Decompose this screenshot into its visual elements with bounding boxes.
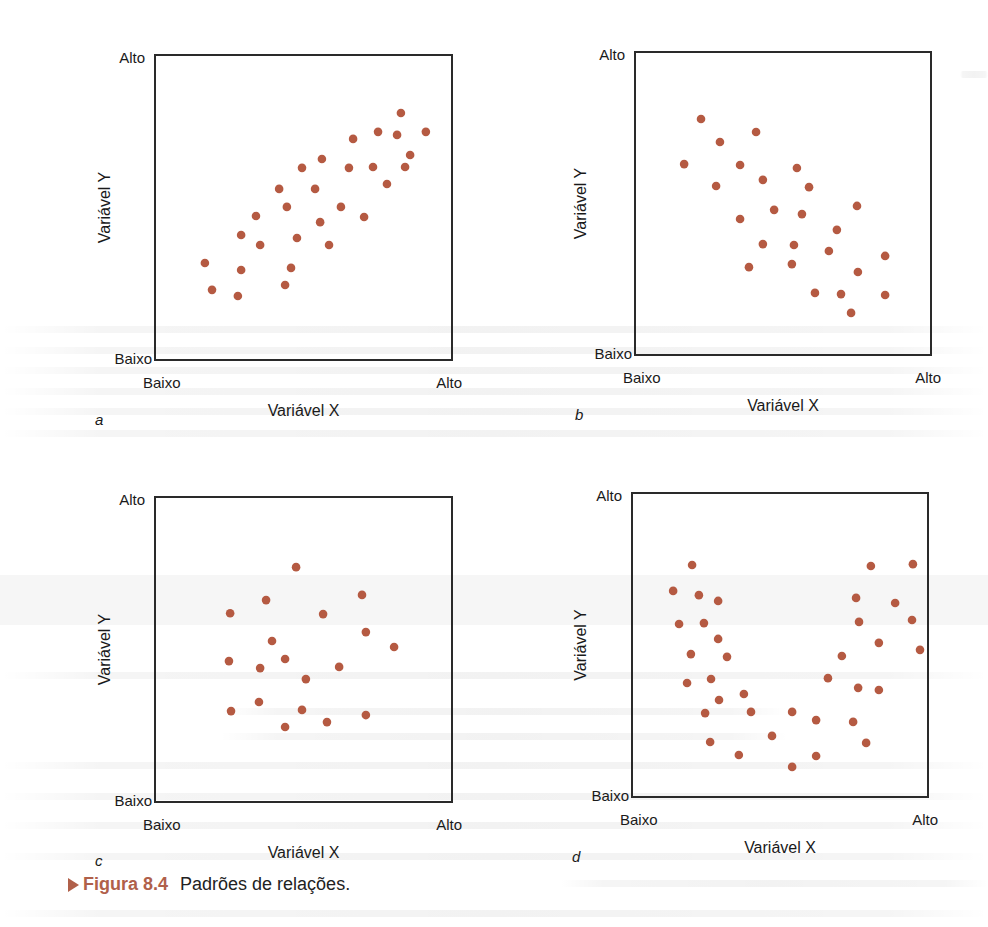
scatter-panel-a: [155, 55, 452, 360]
data-point: [759, 240, 768, 249]
data-point: [256, 664, 265, 673]
plot-frame: [155, 497, 452, 802]
data-point: [759, 176, 768, 185]
data-point: [735, 751, 744, 760]
data-point: [234, 292, 243, 301]
y-axis-title: Variável Y: [572, 167, 589, 239]
data-point: [369, 163, 378, 172]
y-tick-label-low: Baixo: [591, 787, 629, 804]
data-point: [255, 698, 264, 707]
data-point: [805, 183, 814, 192]
data-point: [793, 164, 802, 173]
y-tick-label-low: Baixo: [114, 792, 152, 809]
data-point: [281, 655, 290, 664]
data-point: [790, 241, 799, 250]
data-point: [824, 674, 833, 683]
data-point: [881, 252, 890, 261]
scatter-panel-d: [632, 493, 928, 797]
data-point: [683, 679, 692, 688]
x-tick-label-high: Alto: [912, 811, 938, 828]
data-point: [811, 289, 820, 298]
y-tick-label-high: Alto: [119, 49, 145, 66]
data-point: [337, 203, 346, 212]
data-point: [706, 738, 715, 747]
data-point: [788, 763, 797, 772]
data-point: [281, 281, 290, 290]
plot-frame: [155, 55, 452, 360]
y-axis-title: Variável Y: [96, 613, 113, 685]
data-point: [292, 563, 301, 572]
x-tick-label-high: Alto: [915, 369, 941, 386]
data-point: [675, 620, 684, 629]
data-point: [281, 723, 290, 732]
x-tick-label-high: Alto: [436, 374, 462, 391]
data-point: [390, 643, 399, 652]
data-point: [325, 241, 334, 250]
data-point: [740, 690, 749, 699]
data-point: [422, 128, 431, 137]
data-point: [867, 562, 876, 571]
data-point: [275, 185, 284, 194]
data-point: [349, 135, 358, 144]
data-point: [714, 597, 723, 606]
data-point: [237, 231, 246, 240]
data-point: [736, 215, 745, 224]
data-point: [227, 707, 236, 716]
data-point: [406, 151, 415, 160]
scatter-panel-c: [155, 497, 452, 802]
data-point: [747, 708, 756, 717]
y-tick-label-high: Alto: [119, 491, 145, 508]
data-point: [798, 210, 807, 219]
x-tick-label-low: Baixo: [620, 811, 658, 828]
data-point: [225, 657, 234, 666]
data-point: [788, 260, 797, 269]
data-point: [311, 185, 320, 194]
data-point: [397, 109, 406, 118]
data-point: [680, 160, 689, 169]
data-point: [298, 706, 307, 715]
data-point: [283, 203, 292, 212]
data-point: [362, 711, 371, 720]
data-point: [323, 718, 332, 727]
y-tick-label-high: Alto: [599, 46, 625, 63]
data-point: [833, 226, 842, 235]
data-point: [316, 218, 325, 227]
data-point: [360, 213, 369, 222]
data-point: [226, 609, 235, 618]
data-point: [752, 128, 761, 137]
data-point: [825, 247, 834, 256]
data-point: [707, 675, 716, 684]
data-point: [287, 264, 296, 273]
data-point: [697, 115, 706, 124]
panel-letter: c: [95, 852, 103, 869]
data-point: [298, 164, 307, 173]
data-point: [812, 716, 821, 725]
x-axis-title: Variável X: [268, 402, 340, 419]
data-point: [688, 561, 697, 570]
caption-label: Figura 8.4: [83, 874, 168, 895]
data-point: [712, 182, 721, 191]
data-point: [345, 164, 354, 173]
data-point: [201, 259, 210, 268]
scatter-panel-b: [635, 52, 931, 355]
data-point: [393, 131, 402, 140]
y-axis-title: Variável Y: [572, 609, 589, 681]
data-point: [362, 628, 371, 637]
x-axis-title: Variável X: [268, 844, 340, 861]
data-point: [852, 594, 861, 603]
data-point: [838, 652, 847, 661]
data-point: [687, 650, 696, 659]
x-tick-label-low: Baixo: [143, 816, 181, 833]
data-point: [723, 653, 732, 662]
data-point: [302, 675, 311, 684]
data-point: [256, 241, 265, 250]
data-point: [262, 596, 271, 605]
data-point: [853, 202, 862, 211]
data-point: [812, 752, 821, 761]
panel-letter: b: [575, 406, 583, 423]
figure-caption: Figura 8.4 Padrões de relações.: [68, 874, 350, 895]
x-tick-label-low: Baixo: [623, 369, 661, 386]
y-tick-label-high: Alto: [596, 487, 622, 504]
data-point: [916, 646, 925, 655]
data-point: [875, 686, 884, 695]
